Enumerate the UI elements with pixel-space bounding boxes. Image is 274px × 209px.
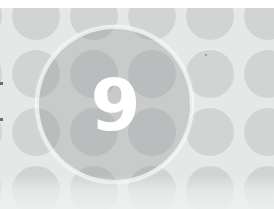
edge-registration-mark-bottom bbox=[0, 118, 3, 121]
cover-image: 9 bbox=[0, 0, 274, 209]
edge-registration-mark-top bbox=[0, 82, 3, 85]
print-speck bbox=[205, 54, 207, 56]
top-white-margin bbox=[0, 0, 274, 8]
poster-panel: 9 bbox=[0, 8, 274, 209]
issue-number: 9 bbox=[37, 27, 192, 182]
